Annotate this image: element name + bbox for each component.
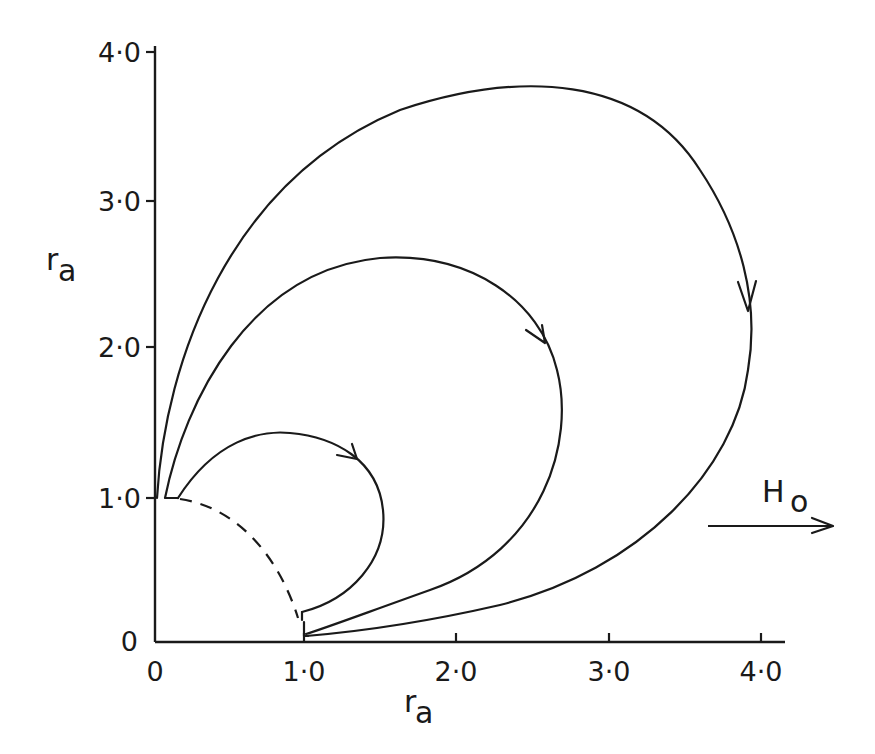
axes [146,46,785,642]
x-tick-label: 1·0 [283,656,326,687]
outer-trajectory [157,86,756,636]
applied-field-indicator: H o [708,474,833,533]
y-tick-label: 4·0 [98,37,141,68]
y-tick-label: 0 [121,626,138,657]
middle-trajectory [165,257,562,634]
unit-circle-boundary [180,499,298,618]
field-label-main: H [762,474,785,509]
field-label-sub: o [790,484,808,519]
x-tick-labels: 0 1·0 2·0 3·0 4·0 [146,656,782,687]
x-axis-title-sub: a [415,695,433,730]
x-tick-label: 3·0 [588,656,631,687]
y-tick-label: 3·0 [98,186,141,217]
y-axis-title-sub: a [58,253,76,288]
x-tick-label: 0 [146,656,163,687]
y-tick-label: 2·0 [98,332,141,363]
x-tick-label: 2·0 [435,656,478,687]
inner-trajectory [166,433,383,620]
x-axis-title: r a [404,684,433,730]
y-tick-labels: 4·0 3·0 2·0 1·0 0 [98,37,141,657]
y-tick-label: 1·0 [98,483,141,514]
y-axis-title: r a [46,242,76,288]
trajectory-diagram: 4·0 3·0 2·0 1·0 0 0 1·0 2·0 3·0 4·0 r a … [0,0,875,754]
x-tick-label: 4·0 [740,656,783,687]
